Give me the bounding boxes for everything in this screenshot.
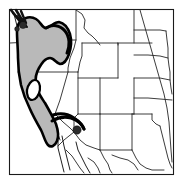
locality-dot-southern-california bbox=[73, 126, 81, 134]
cluster-dot-secondary bbox=[15, 27, 20, 32]
cluster-dot-core bbox=[19, 21, 26, 28]
range-interior-gap bbox=[27, 80, 40, 100]
distribution-map-figure bbox=[0, 0, 183, 184]
map-canvas bbox=[0, 0, 183, 184]
